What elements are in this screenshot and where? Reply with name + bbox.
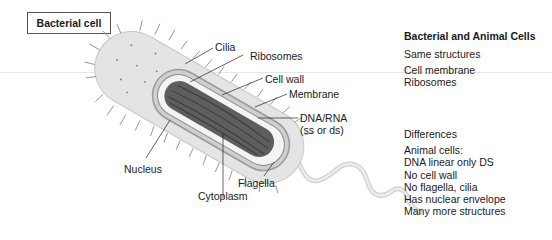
label-dna-rna-note: (ss or ds) (300, 124, 344, 136)
diff-subheading: Animal cells: (404, 144, 506, 156)
label-nucleus: Nucleus (124, 163, 162, 175)
diff-item: No flagella, cilia (404, 181, 506, 193)
same-structures-section: Same structures Cell membrane Ribosomes (404, 48, 480, 89)
label-cytoplasm: Cytoplasm (198, 190, 248, 202)
label-dna-rna: DNA/RNA (300, 112, 347, 124)
panel-heading: Bacterial and Animal Cells (404, 30, 536, 42)
diff-heading: Differences (404, 128, 506, 140)
label-flagella: Flagella (238, 177, 275, 189)
label-cell-wall: Cell wall (265, 73, 304, 85)
same-item: Ribosomes (404, 76, 480, 88)
differences-section: Differences Animal cells: DNA linear onl… (404, 128, 506, 217)
same-heading: Same structures (404, 48, 480, 60)
diff-item: Many more structures (404, 205, 506, 217)
diff-item: DNA linear only DS (404, 156, 506, 168)
label-ribosomes: Ribosomes (250, 50, 303, 62)
same-item: Cell membrane (404, 64, 480, 76)
comparison-heading: Bacterial and Animal Cells (404, 30, 536, 42)
label-cilia: Cilia (215, 41, 235, 53)
diff-item: No cell wall (404, 169, 506, 181)
label-membrane: Membrane (289, 88, 339, 100)
diff-item: Has nuclear envelope (404, 193, 506, 205)
